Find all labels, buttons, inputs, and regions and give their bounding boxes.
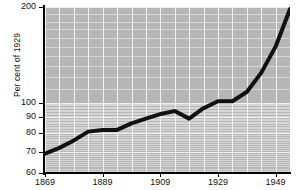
y-tick-mark: [39, 152, 44, 153]
y-tick-mark: [39, 133, 44, 134]
x-tick-mark: [218, 173, 219, 177]
x-tick-label: 1869: [35, 177, 55, 187]
x-tick-label: 1909: [150, 177, 170, 187]
y-tick-mark: [39, 117, 44, 118]
x-axis-ticks: 18691889190919291949: [0, 0, 304, 190]
x-tick-label: 1949: [266, 177, 286, 187]
x-tick-label: 1889: [93, 177, 113, 187]
x-tick-mark: [103, 173, 104, 177]
x-tick-label: 1929: [208, 177, 228, 187]
x-tick-mark: [276, 173, 277, 177]
y-tick-mark: [39, 173, 44, 174]
y-tick-mark: [39, 7, 44, 8]
x-tick-mark: [45, 173, 46, 177]
x-tick-mark: [160, 173, 161, 177]
chart-container: Per cent of 1929 20010090807060 18691889…: [0, 0, 304, 190]
y-tick-mark: [39, 103, 44, 104]
